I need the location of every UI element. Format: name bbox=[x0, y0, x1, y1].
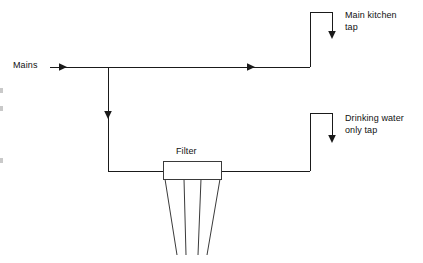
drinking-water-tap-arrow-icon bbox=[328, 135, 336, 143]
edge-mark bbox=[0, 88, 3, 93]
drinking-water-tap-pipe bbox=[310, 113, 332, 171]
plumbing-diagram: Mains Main kitchentap Drinking wateronly… bbox=[0, 0, 423, 263]
drinking-water-tap-label-line2: only tap bbox=[345, 125, 377, 135]
main-kitchen-tap-label-line1: Main kitchen bbox=[345, 10, 397, 20]
drinking-water-tap-label-line1: Drinking water bbox=[345, 113, 404, 123]
branch-flow-arrow-icon bbox=[104, 111, 112, 119]
mains-inlet-arrow-icon bbox=[59, 63, 67, 71]
filter-head-box bbox=[164, 162, 222, 180]
drinking-water-tap-label: Drinking wateronly tap bbox=[345, 112, 404, 136]
edge-mark bbox=[0, 158, 3, 163]
main-kitchen-tap-arrow-icon bbox=[328, 31, 336, 39]
mains-label: Mains bbox=[13, 59, 38, 71]
main-kitchen-tap-label: Main kitchentap bbox=[345, 9, 397, 33]
mains-flow-arrow-icon bbox=[247, 63, 255, 71]
cartridge-right-edge bbox=[207, 179, 220, 255]
edge-mark bbox=[0, 106, 3, 111]
main-kitchen-tap-label-line2: tap bbox=[345, 22, 358, 32]
cartridge-inner-line-left bbox=[184, 179, 186, 255]
scan-edge-marks bbox=[0, 88, 3, 163]
filter-label: Filter bbox=[176, 145, 197, 157]
flow-arrowheads bbox=[59, 31, 336, 143]
cartridge-inner-line-right bbox=[198, 179, 201, 255]
filter-cartridge bbox=[165, 179, 220, 255]
main-kitchen-tap-pipe bbox=[310, 12, 332, 67]
cartridge-left-edge bbox=[165, 179, 177, 255]
